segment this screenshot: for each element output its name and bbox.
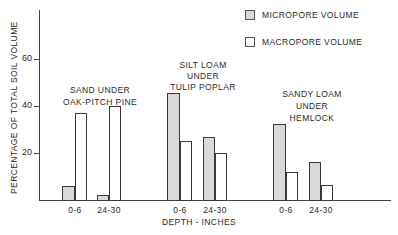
x-category-label: 0-6 xyxy=(165,205,195,215)
bar-sand-24-30-macropore xyxy=(109,106,121,201)
y-axis xyxy=(39,10,40,201)
x-axis-label: DEPTH - INCHES xyxy=(162,217,236,227)
group-label-sandy-loam: SANDY LOAM UNDER HEMLOCK xyxy=(272,88,352,124)
y-tick-40 xyxy=(34,106,39,107)
group-label-line: SAND UNDER xyxy=(55,85,145,95)
bar-sandy-loam-24-30-macropore xyxy=(321,185,333,201)
bar-sand-0-6-macropore xyxy=(75,113,87,201)
bar-sandy-loam-0-6-micropore xyxy=(273,124,286,201)
x-category-label: 0-6 xyxy=(60,205,90,215)
group-label-sand: SAND UNDER OAK-PITCH PINE xyxy=(55,85,145,107)
bar-silt-loam-24-30-micropore xyxy=(203,137,215,201)
group-label-silt-loam: SILT LOAM UNDER TULIP POPLAR xyxy=(163,60,243,93)
y-tick-20 xyxy=(34,153,39,154)
bar-silt-loam-0-6-macropore xyxy=(180,141,192,201)
bar-sandy-loam-0-6-macropore xyxy=(286,172,298,201)
group-label-line: OAK-PITCH PINE xyxy=(55,97,145,107)
group-label-line: UNDER xyxy=(163,71,243,82)
x-category-label: 0-6 xyxy=(271,205,301,215)
legend-label-macropore: MACROPORE VOLUME xyxy=(262,37,362,47)
legend-swatch-micropore xyxy=(245,10,255,20)
bar-sandy-loam-24-30-micropore xyxy=(309,162,321,201)
x-category-label: 24-30 xyxy=(306,205,336,215)
group-label-line: SANDY LOAM xyxy=(272,88,352,100)
bar-sand-0-6-micropore xyxy=(62,186,75,201)
group-label-line: SILT LOAM xyxy=(163,60,243,71)
y-axis-label: PERCENTAGE OF TOTAL SOIL VOLUME xyxy=(9,21,19,194)
bar-sand-24-30-micropore xyxy=(97,195,109,201)
group-label-line: HEMLOCK xyxy=(272,112,352,124)
x-category-label: 24-30 xyxy=(94,205,124,215)
x-category-label: 24-30 xyxy=(200,205,230,215)
group-label-line: UNDER xyxy=(272,100,352,112)
legend-swatch-macropore xyxy=(245,37,255,47)
bar-silt-loam-0-6-micropore xyxy=(167,93,180,201)
y-tick-60 xyxy=(34,59,39,60)
bar-silt-loam-24-30-macropore xyxy=(215,153,227,201)
group-label-line: TULIP POPLAR xyxy=(163,82,243,93)
legend-label-micropore: MICROPORE VOLUME xyxy=(262,10,359,20)
